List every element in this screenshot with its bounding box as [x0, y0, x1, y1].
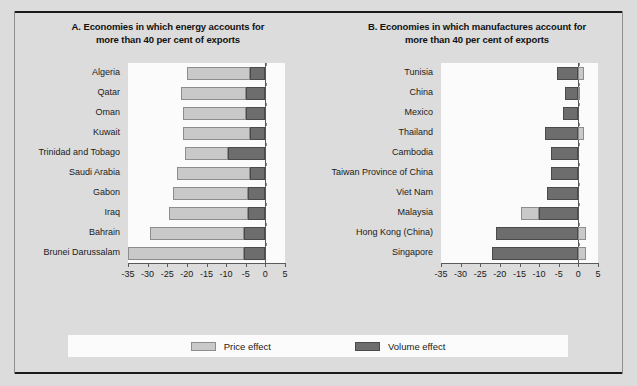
legend-item-volume: Volume effect: [355, 341, 445, 352]
row-tick: [266, 163, 267, 166]
x-axis-tick: [226, 263, 227, 267]
panel-b-title-line1: B. Economies in which manufactures accou…: [333, 20, 621, 33]
bar-segment-price: [150, 227, 244, 240]
panel-a-plot-area: -35-30-25-20-15-10-505: [128, 63, 285, 263]
category-label: Hong Kong (China): [356, 227, 433, 238]
x-axis-tick: [246, 263, 247, 267]
legend-label-volume: Volume effect: [388, 341, 445, 352]
legend-label-price: Price effect: [224, 341, 271, 352]
bar-segment-volume: [496, 227, 578, 240]
row-tick: [579, 183, 580, 186]
panel-a-title: A. Economies in which energy accounts fo…: [18, 20, 318, 46]
category-label: Bahrain: [89, 227, 120, 238]
x-axis-tick: [480, 263, 481, 267]
x-axis-tick: [598, 263, 599, 267]
row-tick: [266, 243, 267, 246]
row-tick: [266, 143, 267, 146]
figure-container: A. Economies in which energy accounts fo…: [0, 0, 637, 386]
row-tick: [266, 83, 267, 86]
category-label: Thailand: [398, 127, 433, 138]
frame-left-edge: [14, 11, 15, 374]
category-label: Trinidad and Tobago: [38, 147, 120, 158]
bar-segment-price: [187, 67, 250, 80]
x-axis-tick: [461, 263, 462, 267]
bar-segment-volume: [547, 187, 578, 200]
bar-segment-price: [578, 227, 586, 240]
bar-segment-volume: [539, 207, 578, 220]
legend: Price effect Volume effect: [68, 335, 568, 357]
category-label: Oman: [95, 107, 120, 118]
row-tick: [266, 203, 267, 206]
bar-segment-price: [169, 207, 248, 220]
bar-segment-price: [185, 147, 228, 160]
x-axis-tick: [539, 263, 540, 267]
row-tick: [579, 203, 580, 206]
bar-segment-price: [578, 247, 586, 260]
category-label: Singapore: [392, 247, 433, 258]
x-axis-tick: [500, 263, 501, 267]
legend-item-price: Price effect: [191, 341, 271, 352]
bar-segment-volume: [246, 107, 266, 120]
panel-b: B. Economies in which manufactures accou…: [327, 20, 627, 320]
panel-b-title: B. Economies in which manufactures accou…: [327, 20, 627, 46]
top-rule: [14, 11, 623, 13]
x-axis-tick: [187, 263, 188, 267]
bar-segment-volume: [244, 227, 266, 240]
bar-segment-price: [181, 87, 246, 100]
row-tick: [579, 223, 580, 226]
row-tick: [579, 103, 580, 106]
bar-segment-price: [173, 187, 248, 200]
bar-segment-volume: [551, 147, 578, 160]
category-label: Saudi Arabia: [69, 167, 120, 178]
bar-segment-price: [183, 127, 250, 140]
panel-a-title-line2: more than 40 per cent of exports: [24, 33, 312, 46]
bar-segment-volume: [565, 87, 579, 100]
panel-a-category-labels: AlgeriaQatarOmanKuwaitTrinidad and Tobag…: [18, 63, 124, 263]
x-axis-tick: [578, 263, 579, 267]
bar-segment-price: [578, 127, 584, 140]
bar-segment-volume: [545, 127, 578, 140]
row-tick: [266, 183, 267, 186]
category-label: Kuwait: [93, 127, 120, 138]
bar-segment-volume: [244, 247, 266, 260]
row-tick: [266, 103, 267, 106]
row-tick: [266, 63, 267, 66]
row-tick: [579, 123, 580, 126]
panel-b-title-line2: more than 40 per cent of exports: [333, 33, 621, 46]
row-tick: [579, 163, 580, 166]
category-label: Gabon: [93, 187, 120, 198]
bottom-rule: [14, 372, 623, 374]
x-axis-tick: [207, 263, 208, 267]
bar-segment-price: [578, 67, 584, 80]
x-axis-tick-label: 5: [273, 269, 297, 279]
row-tick: [266, 123, 267, 126]
category-label: Mexico: [404, 107, 433, 118]
x-axis-tick: [441, 263, 442, 267]
category-label: Iraq: [104, 207, 120, 218]
category-label: Malaysia: [397, 207, 433, 218]
bar-segment-volume: [228, 147, 265, 160]
x-axis-tick: [148, 263, 149, 267]
bar-segment-volume: [563, 107, 579, 120]
category-label: Cambodia: [392, 147, 433, 158]
x-axis-tick: [285, 263, 286, 267]
bar-segment-price: [128, 247, 244, 260]
bar-segment-price: [183, 107, 246, 120]
category-label: Viet Nam: [396, 187, 433, 198]
x-axis-tick: [265, 263, 266, 267]
x-axis-tick: [167, 263, 168, 267]
category-label: Qatar: [97, 87, 120, 98]
x-axis-tick: [520, 263, 521, 267]
category-label: Algeria: [92, 67, 120, 78]
panel-a-title-line1: A. Economies in which energy accounts fo…: [24, 20, 312, 33]
row-tick: [579, 243, 580, 246]
bar-segment-volume: [492, 247, 578, 260]
row-tick: [266, 223, 267, 226]
bar-segment-volume: [248, 207, 266, 220]
category-label: China: [409, 87, 433, 98]
x-axis-tick: [128, 263, 129, 267]
bar-segment-volume: [250, 127, 266, 140]
bar-segment-volume: [248, 187, 266, 200]
panel-a-plot-wrap: AlgeriaQatarOmanKuwaitTrinidad and Tobag…: [18, 63, 318, 281]
bar-segment-price: [521, 207, 539, 220]
